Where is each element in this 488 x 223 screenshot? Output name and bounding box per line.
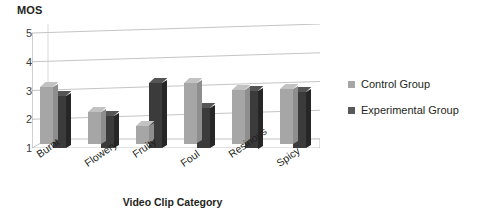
bar-face [280,89,293,144]
bar-face [184,83,197,143]
bar-series-layer [32,24,320,148]
bar-group [176,24,224,148]
x-axis-title: Video Clip Category [0,196,345,208]
bar-side [197,80,202,143]
x-axis-category-labels: BurntFloweryFruityFoulResinousSpicy [32,150,332,192]
bar-side [66,93,71,148]
bar-group [128,24,176,148]
bar-spicy-control[interactable] [280,89,293,144]
bar-face [40,87,53,143]
legend-label: Control Group [361,78,430,90]
plot-area [32,24,320,148]
bar-face [88,112,101,144]
bar-flowery-control[interactable] [88,112,101,144]
legend-item[interactable]: Control Group [348,78,459,90]
bar-group [272,24,320,148]
legend-label: Experimental Group [361,104,459,116]
y-axis-tick-labels: 12345 [14,24,32,148]
bar-group [32,24,80,148]
legend-item[interactable]: Experimental Group [348,104,459,116]
y-axis-title: MOS [17,4,43,16]
legend-swatch-icon [348,81,355,88]
bar-foul-control[interactable] [184,83,197,143]
bar-burnt-control[interactable] [40,87,53,143]
bar-side [101,109,106,144]
bar-side [306,89,311,148]
bar-group [80,24,128,148]
bar-resinous-control[interactable] [232,90,245,143]
chart-legend: Control GroupExperimental Group [348,78,459,130]
bar-side [293,86,298,144]
bar-face [232,90,245,143]
bar-side [210,105,215,148]
chart-container: MOS 12345 Bur [0,0,488,223]
legend-swatch-icon [348,107,355,114]
bar-side [162,80,167,148]
x-axis-label-foul: Foul [178,147,202,169]
